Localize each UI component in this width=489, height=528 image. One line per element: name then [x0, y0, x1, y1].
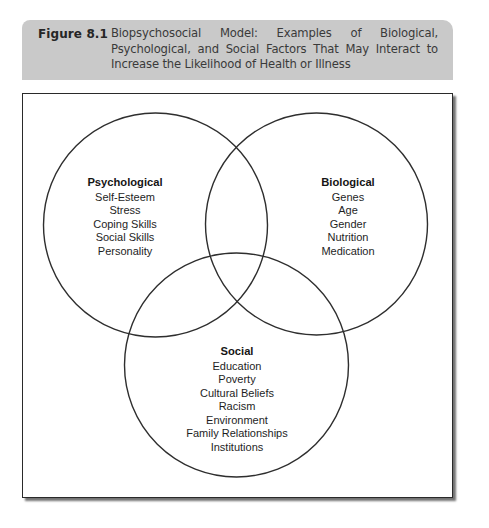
psychological-item: Personality [87, 245, 162, 259]
social-item: Racism [186, 400, 287, 414]
social-item: Family Relationships [186, 427, 287, 441]
social-item: Environment [186, 414, 287, 428]
biological-heading: Biological [321, 176, 374, 190]
psychological-item: Coping Skills [87, 218, 162, 232]
biological-group: Biological Genes Age Gender Nutrition Me… [321, 176, 374, 258]
biological-item: Gender [321, 218, 374, 232]
psychological-group: Psychological Self-Esteem Stress Coping … [87, 176, 162, 258]
biological-item: Medication [321, 245, 374, 259]
biological-item: Nutrition [321, 231, 374, 245]
social-item: Poverty [186, 373, 287, 387]
psychological-item: Self-Esteem [87, 191, 162, 205]
social-item: Education [186, 360, 287, 374]
social-heading: Social [186, 345, 287, 359]
social-item: Institutions [186, 441, 287, 455]
psychological-heading: Psychological [87, 176, 162, 190]
psychological-item: Stress [87, 204, 162, 218]
psychological-item: Social Skills [87, 231, 162, 245]
social-group: Social Education Poverty Cultural Belief… [186, 345, 287, 454]
biological-circle [206, 113, 428, 335]
biological-item: Age [321, 204, 374, 218]
social-item: Cultural Beliefs [186, 387, 287, 401]
biological-item: Genes [321, 191, 374, 205]
